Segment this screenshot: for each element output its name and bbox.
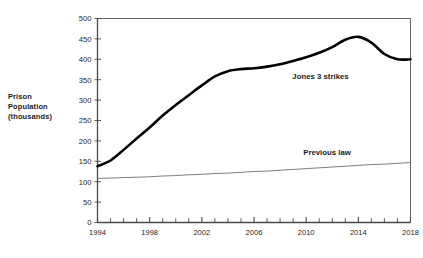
svg-text:400: 400 (79, 55, 92, 64)
svg-text:50: 50 (83, 198, 91, 207)
svg-text:200: 200 (79, 137, 92, 146)
svg-text:2018: 2018 (402, 228, 419, 237)
series-label-1: Previous law (303, 148, 352, 157)
svg-text:250: 250 (79, 116, 92, 125)
data-series-lines (98, 37, 411, 179)
svg-text:2006: 2006 (246, 228, 263, 237)
svg-text:0: 0 (87, 218, 91, 227)
svg-text:300: 300 (79, 96, 92, 105)
svg-text:1998: 1998 (141, 228, 158, 237)
svg-text:1994: 1994 (89, 228, 106, 237)
svg-text:100: 100 (79, 178, 92, 187)
series-annotations: Jones 3 strikesPrevious law (292, 72, 351, 157)
series-line-1 (98, 163, 411, 179)
y-axis-tick-labels: 050100150200250300350400450500 (79, 14, 92, 227)
chart-figure: Prison Population (thousands) 0501001502… (0, 0, 423, 258)
svg-text:500: 500 (79, 14, 92, 23)
x-axis-ticks (98, 217, 411, 223)
series-label-0: Jones 3 strikes (292, 72, 349, 81)
svg-text:2010: 2010 (298, 228, 315, 237)
svg-text:150: 150 (79, 157, 92, 166)
plot-frame (98, 19, 411, 223)
svg-text:2014: 2014 (350, 228, 367, 237)
svg-text:350: 350 (79, 76, 92, 85)
line-chart-plot: 050100150200250300350400450500 199419982… (0, 0, 423, 258)
x-axis-tick-labels: 1994199820022006201020142018 (89, 228, 419, 237)
series-line-0 (98, 37, 411, 166)
svg-text:2002: 2002 (193, 228, 210, 237)
svg-text:450: 450 (79, 35, 92, 44)
